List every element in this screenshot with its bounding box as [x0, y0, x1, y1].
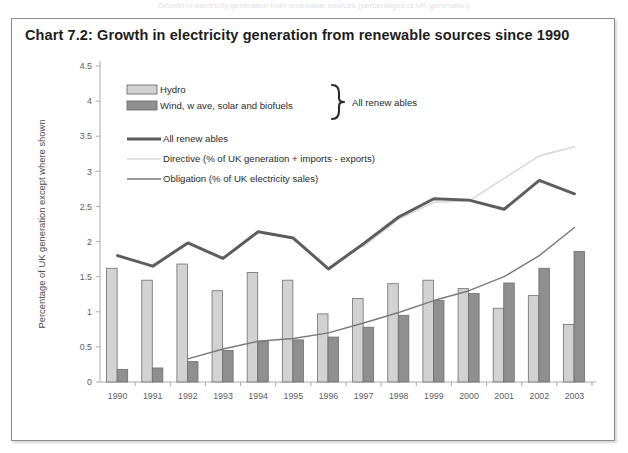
- bar-wind-1995: [293, 340, 304, 382]
- x-axis-tick-label: 1994: [248, 391, 268, 401]
- bar-hydro-2003: [563, 324, 574, 382]
- bar-rect: [353, 298, 364, 382]
- bar-hydro-1993: [212, 291, 223, 382]
- bar-rect: [328, 337, 339, 382]
- bar-rect: [317, 314, 328, 382]
- x-axis-tick-label: 1999: [424, 391, 444, 401]
- bar-hydro-2001: [493, 308, 504, 382]
- bar-hydro-1996: [317, 314, 328, 382]
- bar-rect: [574, 251, 585, 382]
- legend-label-hydro: Hydro: [160, 84, 186, 95]
- legend-label-all-renewables: All renew ables: [163, 133, 228, 144]
- bar-rect: [247, 272, 258, 382]
- bar-rect: [388, 284, 399, 382]
- bar-hydro-1995: [282, 280, 293, 382]
- bar-wind-2001: [504, 283, 515, 382]
- x-axis-tick-label: 1997: [354, 391, 374, 401]
- x-axis-tick-label: 1998: [389, 391, 409, 401]
- legend-label-directive: Directive (% of UK generation + imports …: [163, 153, 375, 164]
- bar-wind-1992: [187, 362, 198, 382]
- chart-frame: Chart 7.2: Growth in electricity generat…: [11, 18, 615, 441]
- y-axis-tick-label: 3.5: [80, 131, 92, 141]
- bar-rect: [363, 327, 374, 382]
- x-axis-tick-label: 1990: [108, 391, 128, 401]
- line-obligation: [188, 228, 575, 359]
- bar-rect: [528, 296, 539, 382]
- bar-hydro-1990: [107, 268, 118, 382]
- bar-wind-1990: [117, 369, 128, 382]
- legend-brace-icon: [332, 85, 344, 119]
- x-axis-tick-label: 1996: [319, 391, 339, 401]
- bar-wind-1997: [363, 327, 374, 382]
- bar-hydro-1999: [423, 280, 434, 382]
- legend-label-obligation: Obligation (% of UK electricity sales): [163, 173, 318, 184]
- x-axis-tick-label: 1993: [213, 391, 233, 401]
- bar-rect: [458, 289, 469, 382]
- x-axis-tick-label: 1992: [178, 391, 198, 401]
- bar-rect: [152, 368, 163, 382]
- bar-rect: [398, 315, 409, 382]
- y-axis-tick-label: 0: [87, 377, 92, 387]
- y-axis-tick-label: 1: [87, 307, 92, 317]
- bar-wind-1998: [398, 315, 409, 382]
- legend-swatch-wind: [127, 101, 157, 110]
- bar-hydro-1998: [388, 284, 399, 382]
- bar-rect: [539, 268, 550, 382]
- clipped-header-text: Growth in electricity generation from re…: [0, 0, 628, 12]
- bar-rect: [282, 280, 293, 382]
- bar-rect: [177, 264, 188, 382]
- bar-hydro-1991: [142, 280, 153, 382]
- bar-rect: [504, 283, 515, 382]
- bar-rect: [142, 280, 153, 382]
- line-all-renewables: [118, 180, 575, 268]
- x-axis-tick-label: 2000: [459, 391, 479, 401]
- bar-rect: [212, 291, 223, 382]
- bar-hydro-1992: [177, 264, 188, 382]
- y-axis-tick-label: 4: [87, 96, 92, 106]
- line-directive: [364, 147, 575, 247]
- bar-rect: [293, 340, 304, 382]
- legend-swatch-hydro: [127, 85, 157, 94]
- y-axis-tick-label: 4.5: [80, 61, 92, 71]
- bar-hydro-1994: [247, 272, 258, 382]
- bar-rect: [469, 294, 480, 382]
- y-axis-tick-label: 2.5: [80, 202, 92, 212]
- x-axis-tick-label: 2001: [494, 391, 514, 401]
- bar-wind-1996: [328, 337, 339, 382]
- y-axis-tick-label: 0.5: [80, 342, 92, 352]
- bar-rect: [563, 324, 574, 382]
- y-axis-title: Percentage of UK generation except where…: [36, 120, 47, 329]
- bar-rect: [423, 280, 434, 382]
- x-axis-tick-label: 2002: [529, 391, 549, 401]
- y-axis-tick-label: 1.5: [80, 272, 92, 282]
- bar-rect: [258, 341, 269, 382]
- bar-rect: [493, 308, 504, 382]
- bar-hydro-1997: [353, 298, 364, 382]
- x-axis-tick-label: 1995: [283, 391, 303, 401]
- chart-svg: 00.511.522.533.544.5Percentage of UK gen…: [12, 19, 616, 442]
- bar-rect: [223, 350, 234, 382]
- x-axis-tick-label: 1991: [143, 391, 163, 401]
- bar-wind-1994: [258, 341, 269, 382]
- bar-hydro-2000: [458, 289, 469, 382]
- y-axis-tick-label: 2: [87, 237, 92, 247]
- bar-wind-1991: [152, 368, 163, 382]
- bar-wind-1999: [433, 301, 444, 382]
- bar-rect: [187, 362, 198, 382]
- bar-wind-2002: [539, 268, 550, 382]
- bar-rect: [433, 301, 444, 382]
- plot-area: 00.511.522.533.544.5Percentage of UK gen…: [12, 19, 616, 442]
- bar-rect: [107, 268, 118, 382]
- bar-hydro-2002: [528, 296, 539, 382]
- bar-wind-1993: [223, 350, 234, 382]
- x-axis-tick-label: 2003: [565, 391, 585, 401]
- y-axis-tick-label: 3: [87, 167, 92, 177]
- bar-rect: [117, 369, 128, 382]
- bar-wind-2000: [469, 294, 480, 382]
- legend-brace-label: All renew ables: [352, 97, 417, 108]
- legend-label-wind: Wind, w ave, solar and biofuels: [160, 100, 293, 111]
- bar-wind-2003: [574, 251, 585, 382]
